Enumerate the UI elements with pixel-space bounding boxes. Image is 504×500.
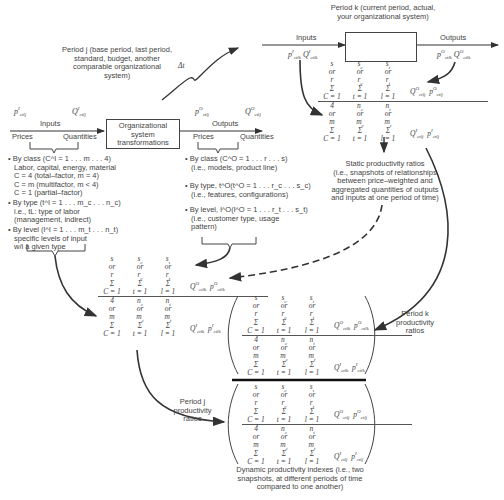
fraction-terms: QIctlj pIctlj bbox=[410, 127, 439, 135]
left-output-price-symbol: pOctlj bbox=[195, 105, 209, 120]
fraction-cell: l = 1 bbox=[298, 458, 326, 466]
fraction-row: 4ncnt bbox=[318, 102, 488, 110]
fraction-row: C = 1t = 1l = 1 bbox=[242, 416, 412, 424]
left-input-quantity-symbol: QIctlj bbox=[72, 105, 86, 120]
organizational-system-box: Organizational system transformations bbox=[106, 119, 180, 149]
fraction-cell: C = 1 bbox=[242, 416, 270, 424]
static-ratio-k-fraction: sscstorororrrcrtΣΣΣQOctlj pOctljC = 1t =… bbox=[318, 60, 488, 143]
output-brace-bottom bbox=[202, 237, 256, 248]
period-j-title: Period j (base period, last period, stan… bbox=[42, 46, 192, 80]
fraction-cell: C = 1 bbox=[242, 327, 270, 335]
right-outputs-label: Outputs bbox=[440, 34, 466, 43]
dynamic-index-note: Dynamic productivity indexes (i.e., two … bbox=[225, 466, 375, 492]
output-brace-top bbox=[198, 142, 238, 153]
right-input-symbols: pIctlk QIctlk bbox=[288, 48, 318, 63]
box-line: transformations bbox=[107, 139, 179, 148]
fraction-cell: l = 1 bbox=[298, 369, 326, 377]
fraction-row: C = 1t = 1l = 1 bbox=[242, 369, 412, 377]
fraction-row: rrcrt bbox=[242, 310, 412, 318]
output-class-group: • By class (C^O = 1 . . . r . . . s) (i.… bbox=[185, 155, 288, 172]
fraction-cell: t = 1 bbox=[126, 288, 154, 296]
fraction-cell: t = 1 bbox=[270, 416, 298, 424]
input-brace-top bbox=[30, 142, 78, 153]
fraction-row: ΣΣΣQOctlj pOctlj bbox=[318, 85, 488, 93]
fraction-cell: l = 1 bbox=[374, 93, 402, 101]
fraction-row: ΣΣΣQOctlk pOctlk bbox=[98, 280, 268, 288]
period-j-ratios-label: Period j productivity ratios bbox=[165, 398, 220, 424]
fraction-row: mmcmt bbox=[242, 352, 412, 360]
fraction-cell: t = 1 bbox=[346, 93, 374, 101]
fraction-terms: QOctlk pOctlk bbox=[190, 280, 225, 288]
paren-bottom-left bbox=[228, 384, 238, 464]
fraction-row: rrcrt bbox=[318, 76, 488, 84]
fraction-row: C = 1t = 1l = 1 bbox=[242, 458, 412, 466]
fraction-terms: QIctlk pIctlk bbox=[190, 322, 221, 330]
fraction-row: sscst bbox=[242, 383, 412, 391]
fraction-cell: C = 1 bbox=[318, 93, 346, 101]
left-input-price-symbol: pIctlj bbox=[14, 105, 26, 120]
input-prices-label: Prices bbox=[12, 133, 33, 142]
fraction-cell: l = 1 bbox=[298, 327, 326, 335]
output-quantities-label: Quantities bbox=[240, 133, 274, 142]
fraction-row: rrcrt bbox=[242, 399, 412, 407]
period-k-title: Period k (current period, actual, your o… bbox=[318, 4, 448, 21]
dynamic-index-top-fraction: sscstorororrrcrtΣΣΣQOctlk pOctlkC = 1t =… bbox=[242, 294, 412, 377]
fraction-cell: t = 1 bbox=[126, 330, 154, 338]
label-line: ratios bbox=[165, 415, 220, 424]
fraction-cell: l = 1 bbox=[374, 135, 402, 143]
fraction-row: C = 1t = 1l = 1 bbox=[318, 135, 488, 143]
fraction-row: 4ncnt bbox=[242, 425, 412, 433]
fraction-row: ororor bbox=[242, 433, 412, 441]
fraction-row: sscst bbox=[318, 60, 488, 68]
fraction-row: ororor bbox=[242, 391, 412, 399]
fraction-terms: QOctlj pOctlj bbox=[410, 85, 443, 93]
fraction-row: C = 1t = 1l = 1 bbox=[242, 327, 412, 335]
fraction-cell: or bbox=[346, 68, 374, 76]
fraction-row: mmcmt bbox=[318, 118, 488, 126]
fraction-row: ΣΣΣQOctlj pOctlj bbox=[242, 408, 412, 416]
fraction-cell: or bbox=[126, 263, 154, 271]
fraction-row: C = 1t = 1l = 1 bbox=[318, 93, 488, 101]
fraction-row: mmcmt bbox=[242, 441, 412, 449]
fraction-row: ΣΣΣQIctlk pIctlk bbox=[242, 361, 412, 369]
fraction-cell: t = 1 bbox=[270, 327, 298, 335]
output-level-group: • By level, l^O(l^O = 1 . . . r_t . . . … bbox=[185, 206, 308, 232]
fraction-row: ΣΣΣQIctlj pIctlj bbox=[242, 450, 412, 458]
fraction-cell: C = 1 bbox=[98, 288, 126, 296]
input-type-line: (management, indirect) bbox=[8, 216, 121, 225]
fraction-row: ororor bbox=[242, 302, 412, 310]
fraction-row: 4ncnt bbox=[242, 336, 412, 344]
output-class-line: (i.e., models, product line) bbox=[185, 164, 288, 173]
fraction-row: sscst bbox=[242, 294, 412, 302]
fraction-cell: l = 1 bbox=[298, 416, 326, 424]
fraction-cell: C = 1 bbox=[242, 458, 270, 466]
fraction-terms: QIctlj pIctlj bbox=[334, 450, 363, 458]
current-period-system-box bbox=[345, 32, 417, 62]
output-level-line: pattern) bbox=[185, 223, 308, 232]
fraction-cell: t = 1 bbox=[270, 369, 298, 377]
left-outputs-label: Outputs bbox=[212, 120, 238, 129]
fraction-row: sscst bbox=[98, 255, 268, 263]
input-brace-curve bbox=[55, 256, 96, 316]
fraction-row: rrcrt bbox=[98, 271, 268, 279]
input-type-group: • By type (t^I = 1 . . . m_c . . . n_c) … bbox=[8, 199, 121, 225]
output-prices-label: Prices bbox=[193, 133, 214, 142]
fraction-terms: QOctlj pOctlj bbox=[334, 408, 367, 416]
input-class-line: C = 1 (partial–factor) bbox=[8, 189, 116, 198]
fraction-cell: l = 1 bbox=[154, 288, 182, 296]
dynamic-note-line: compared to one another) bbox=[225, 483, 375, 492]
fraction-cell: t = 1 bbox=[346, 135, 374, 143]
input-quantities-label: Quantities bbox=[63, 133, 97, 142]
fraction-terms: QOctlk pOctlk bbox=[334, 319, 369, 327]
fraction-row: ororor bbox=[242, 344, 412, 352]
fraction-cell: C = 1 bbox=[98, 330, 126, 338]
period-j-line: system) bbox=[42, 72, 192, 81]
input-class-group: • By class (C^I = 1 . . . m . . . 4) Lab… bbox=[8, 155, 116, 198]
fraction-row: ΣΣΣQOctlk pOctlk bbox=[242, 319, 412, 327]
system-box-label: Organizational system transformations bbox=[107, 122, 179, 148]
fraction-row: ororor bbox=[98, 263, 268, 271]
input-level-line: w/i a given type bbox=[8, 243, 118, 252]
fraction-row: ororor bbox=[318, 110, 488, 118]
static-ratio-note: Static productivity ratios (i.e., snapsh… bbox=[320, 160, 450, 203]
right-inputs-label: Inputs bbox=[296, 34, 316, 43]
